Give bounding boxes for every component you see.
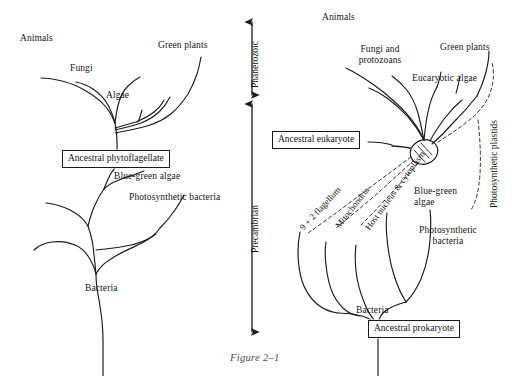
right-root-bacteria: Bacteria (356, 305, 388, 316)
left-tip-animals: Animals (20, 33, 53, 44)
right-ancestral-prokaryote-box: Ancestral prokaryote (368, 320, 460, 338)
photosynthetic-plastids-label: Photosynthetic plastids (489, 120, 499, 208)
left-tip-algae: Algae (106, 90, 129, 101)
left-tip-blue-green-algae: Blue-green algae (114, 171, 180, 182)
right-tip-fungi-protozoans: Fungi and protozoans (348, 44, 412, 66)
left-tip-fungi: Fungi (70, 63, 93, 74)
right-tip-green-plants: Green plants (440, 42, 489, 53)
timeline-era-phanerozoic: Phanerozoic (250, 41, 260, 88)
figure-container: Animals Fungi Algae Green plants Ancestr… (0, 0, 515, 376)
right-tip-blue-green-algae: Blue-green algae (414, 186, 462, 208)
timeline-era-precambrian: Precambrian (250, 205, 260, 253)
right-tip-photosynthetic-bacteria: Photosynthetic bacteria (415, 225, 481, 247)
right-tip-eucaryotic-algae: Eucaryotic algae (412, 73, 477, 84)
left-tip-photosynthetic-bacteria: Photosynthetic bacteria (129, 192, 220, 203)
figure-caption: Figure 2–1 (230, 352, 280, 363)
right-ancestral-eukaryote-box: Ancestral eukaryote (272, 131, 360, 149)
right-tip-animals: Animals (322, 12, 355, 23)
left-tip-green-plants: Green plants (158, 40, 207, 51)
left-ancestral-phytoflagellate-box: Ancestral phytoflagellate (62, 150, 170, 168)
left-root-bacteria: Bacteria (85, 283, 117, 294)
